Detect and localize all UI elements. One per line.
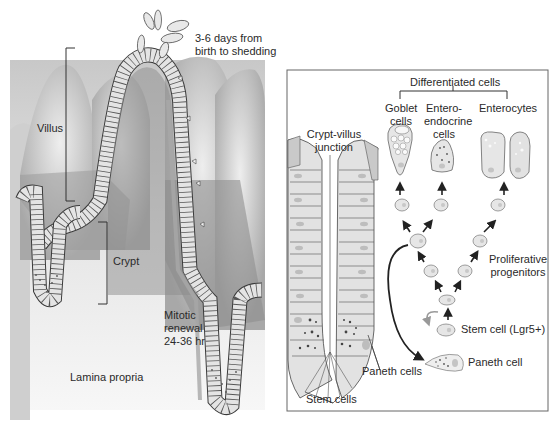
shedding-label-line1: 3-6 days from (195, 32, 276, 45)
mitotic-line2: renewal (164, 322, 205, 335)
enterocytes-label: Enterocytes (479, 102, 537, 115)
stem-cell-lgr5-label: Stem cell (Lgr5+) (461, 323, 545, 336)
entero-line1: Entero- (424, 102, 464, 115)
enteroendocrine-cells-label: Entero- endocrine cells (424, 102, 464, 141)
shedding-label-line2: birth to shedding (195, 45, 276, 58)
goblet-line1: Goblet (385, 102, 417, 115)
goblet-line2: cells (385, 115, 417, 128)
crypt-villus-line2: junction (304, 141, 364, 154)
goblet-cells-label: Goblet cells (385, 102, 417, 128)
mitotic-line3: 24-36 hr (164, 335, 205, 348)
proliferative-line2: progenitors (484, 266, 552, 279)
shedding-label: 3-6 days from birth to shedding (195, 32, 276, 58)
villus-label: Villus (37, 122, 63, 135)
differentiated-cells-title: Differentiated cells (410, 76, 500, 89)
proliferative-line1: Proliferative (484, 253, 552, 266)
entero-line3: cells (424, 128, 464, 141)
stem-cells-label: Stem cells (306, 393, 357, 406)
lamina-propria-label: Lamina propria (70, 371, 143, 384)
entero-line2: endocrine (424, 115, 464, 128)
paneth-cell-label: Paneth cell (468, 356, 522, 369)
mitotic-line1: Mitotic (164, 309, 205, 322)
mitotic-renewal-label: Mitotic renewal 24-36 hr (164, 309, 205, 348)
paneth-cells-label: Paneth cells (362, 365, 422, 378)
proliferative-progenitors-label: Proliferative progenitors (484, 253, 552, 279)
crypt-label: Crypt (113, 255, 139, 268)
crypt-villus-line1: Crypt-villus (304, 128, 364, 141)
crypt-villus-junction-label: Crypt-villus junction (304, 128, 364, 154)
